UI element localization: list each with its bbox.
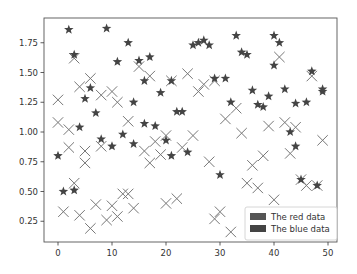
y-tick-label: 1.25	[19, 97, 38, 107]
y-tick-label: 0.25	[19, 216, 38, 226]
x-tick-label: 40	[269, 248, 280, 258]
x-tick-label: 50	[323, 248, 334, 258]
legend-swatch	[250, 213, 266, 220]
x-tick-label: 20	[161, 248, 172, 258]
legend-label: The blue data	[270, 224, 330, 234]
y-tick-label: 0.75	[19, 157, 38, 167]
legend: The red dataThe blue data	[245, 207, 337, 240]
x-tick-label: 30	[215, 248, 226, 258]
x-tick-label: 10	[107, 248, 118, 258]
scatter-chart: 01020304050 0.250.500.751.001.251.501.75…	[0, 0, 357, 274]
y-tick-label: 1.00	[19, 127, 38, 137]
legend-label: The red data	[270, 212, 325, 222]
legend-swatch	[250, 225, 266, 232]
y-tick-label: 1.75	[19, 38, 38, 48]
y-tick-label: 0.50	[19, 187, 38, 197]
y-tick-label: 1.50	[19, 68, 38, 78]
x-tick-label: 0	[55, 248, 60, 258]
